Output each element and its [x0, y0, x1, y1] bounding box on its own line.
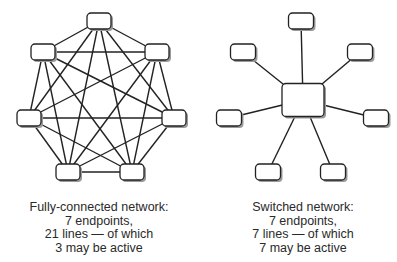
fully-connected-caption: Fully-connected network: 7 endpoints, 21…: [9, 201, 189, 255]
caption-line: 21 lines — of which: [9, 228, 189, 242]
caption-line: Switched network:: [213, 201, 393, 215]
caption-line: Fully-connected network:: [9, 201, 189, 215]
caption-line: 7 endpoints,: [9, 215, 189, 229]
caption-line: 7 endpoints,: [213, 215, 393, 229]
endpoint-node: [56, 164, 82, 182]
caption-line: 7 lines — of which: [213, 228, 393, 242]
endpoint-node: [321, 164, 348, 182]
endpoint-node: [87, 13, 113, 31]
switch-hub-node: [282, 84, 326, 119]
endpoint-node: [217, 110, 244, 128]
switched-caption: Switched network: 7 endpoints, 7 lines —…: [213, 201, 393, 255]
endpoint-node: [145, 44, 171, 62]
caption-line: 3 may be active: [9, 242, 189, 256]
connection-line: [68, 118, 174, 172]
endpoint-node: [17, 110, 43, 128]
caption-line: 7 may be active: [213, 242, 393, 256]
endpoint-node: [364, 110, 391, 128]
endpoint-node: [289, 13, 316, 31]
connection-line: [68, 52, 157, 172]
endpoint-node: [256, 164, 283, 182]
endpoint-node: [231, 44, 258, 62]
endpoint-node: [120, 164, 146, 182]
endpoint-node: [162, 110, 188, 128]
connection-line: [29, 118, 132, 172]
endpoint-node: [348, 44, 375, 62]
endpoint-node: [31, 44, 57, 62]
